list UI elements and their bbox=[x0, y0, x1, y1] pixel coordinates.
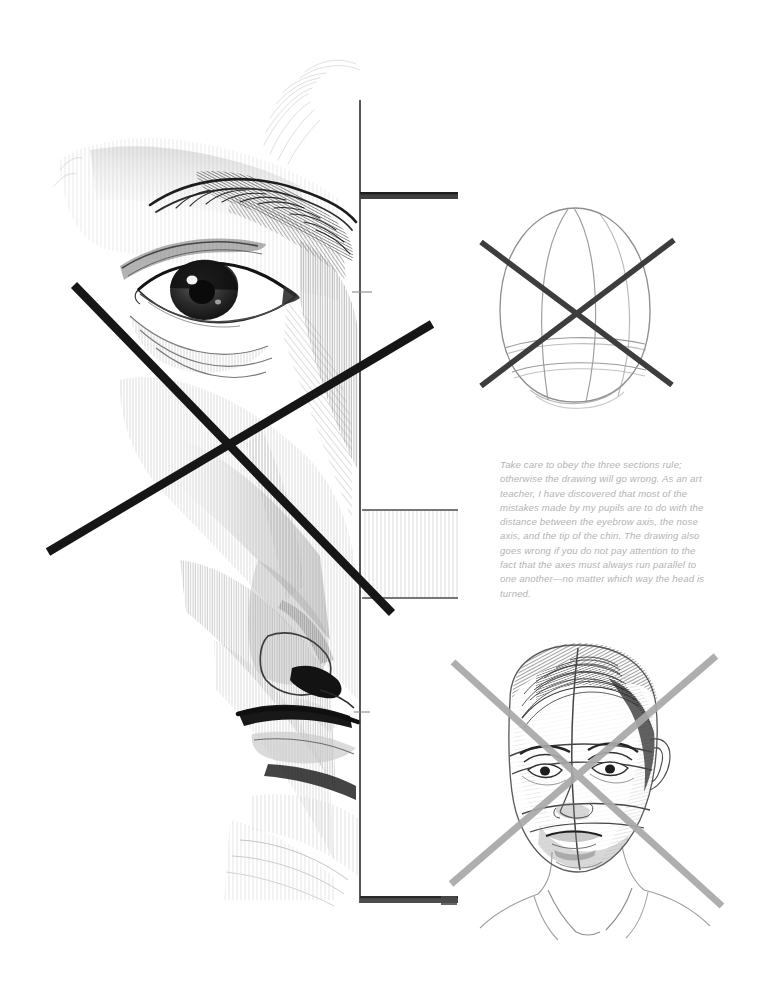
shoulder-right bbox=[644, 890, 710, 926]
shoulder-left bbox=[480, 894, 538, 928]
register-mark bbox=[441, 896, 457, 905]
finished-head-figure bbox=[0, 0, 762, 986]
neck-right bbox=[622, 846, 644, 890]
book-page: Take care to obey the three sections rul… bbox=[0, 0, 762, 986]
